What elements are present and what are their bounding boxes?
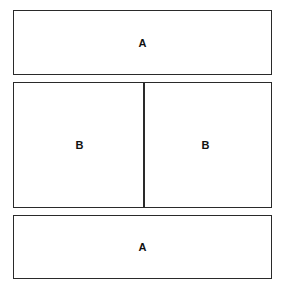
middle-right-label: B	[201, 139, 209, 151]
top-box-label: A	[139, 37, 147, 49]
bottom-box-label: A	[139, 241, 147, 253]
middle-divider	[143, 83, 145, 207]
middle-box: B B	[13, 82, 272, 208]
top-box-a: A	[13, 10, 272, 75]
middle-left-label: B	[76, 139, 84, 151]
bottom-box-a: A	[13, 215, 272, 279]
